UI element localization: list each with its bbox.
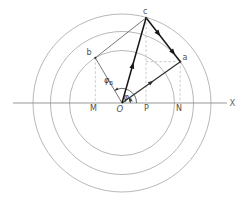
label-b: b — [87, 48, 92, 57]
label-c: c — [143, 7, 147, 16]
diagram-canvas: XφBφAOMPNbca — [0, 0, 250, 204]
point-dot-b — [94, 57, 96, 59]
x-axis-label: X — [230, 98, 236, 108]
phasor-diagram-figure: XφBφAOMPNbca — [0, 0, 250, 204]
label-a: a — [183, 53, 188, 62]
label-M: M — [90, 104, 97, 113]
label-P: P — [144, 104, 149, 113]
point-dot-c — [145, 17, 147, 19]
figure-background — [0, 0, 250, 204]
point-dot-a — [179, 61, 181, 63]
label-O: O — [117, 104, 124, 114]
label-N: N — [176, 104, 182, 113]
